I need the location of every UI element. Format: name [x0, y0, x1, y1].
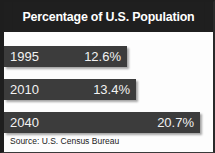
bar-2010: 2010 13.4%	[4, 79, 136, 100]
bar-value-label: 13.4%	[93, 79, 130, 100]
bar-category-label: 1995	[10, 46, 39, 67]
chart-frame: Percentage of U.S. Population Over 65 19…	[0, 0, 215, 153]
bar-2040: 2040 20.7%	[4, 112, 200, 133]
source-note: Source: U.S. Census Bureau	[10, 136, 119, 146]
bar-value-label: 12.6%	[84, 46, 121, 67]
chart-title: Percentage of U.S. Population Over 65	[12, 2, 204, 32]
bar-1995: 1995 12.6%	[4, 46, 127, 67]
bar-category-label: 2040	[10, 112, 39, 133]
bar-category-label: 2010	[10, 79, 39, 100]
bar-value-label: 20.7%	[157, 112, 194, 133]
